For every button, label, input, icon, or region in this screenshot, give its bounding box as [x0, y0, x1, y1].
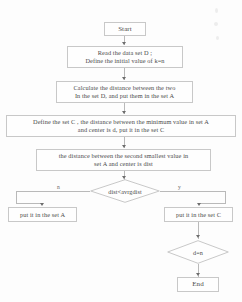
node-decision-dist-label: dist<avrgdist: [108, 188, 142, 195]
node-define-set-c-label: Define the set C , the distance between …: [31, 118, 211, 134]
node-start[interactable]: Start: [104, 22, 146, 36]
connector-decision-no-to-box: [16, 203, 42, 204]
node-calculate-distance-label: Calculate the distance between the two I…: [72, 84, 178, 100]
branch-label-no: n: [57, 184, 60, 190]
connector-decision-yes-horizontal: [160, 191, 226, 192]
connector-decision-yes-to-box: [199, 203, 226, 204]
node-put-set-c[interactable]: put it in the set C: [164, 207, 233, 222]
node-put-set-a[interactable]: put it in the set A: [8, 207, 77, 222]
node-second-smallest-distance-label: the distance between the second smallest…: [57, 152, 191, 168]
node-define-set-c[interactable]: Define the set C , the distance between …: [6, 115, 236, 137]
node-read-data[interactable]: Read the data set D ; Define the initial…: [67, 46, 183, 68]
node-put-set-a-label: put it in the set A: [18, 211, 67, 219]
scan-artifact-speck: [214, 22, 218, 26]
node-start-label: Start: [116, 25, 134, 34]
node-decision-dn-label: d=n: [193, 249, 203, 256]
arrow-head: [122, 111, 126, 114]
arrow-head: [122, 77, 126, 80]
connector-decision-no-horizontal: [16, 191, 90, 192]
arrow-head: [197, 203, 201, 206]
node-calculate-distance[interactable]: Calculate the distance between the two I…: [56, 81, 193, 103]
node-read-data-label: Read the data set D ; Define the initial…: [83, 49, 166, 65]
arrow-head: [122, 145, 126, 148]
scan-artifact-speck: [215, 8, 218, 13]
node-end-label: End: [190, 280, 206, 289]
arrow-head: [196, 235, 200, 238]
node-put-set-c-label: put it in the set C: [174, 211, 223, 219]
arrow-head: [122, 42, 126, 45]
arrow-head: [196, 273, 200, 276]
node-second-smallest-distance[interactable]: the distance between the second smallest…: [36, 149, 211, 171]
node-decision-dn[interactable]: d=n: [167, 240, 229, 264]
arrow-head: [40, 203, 44, 206]
scan-artifact-speck: [216, 36, 219, 40]
node-decision-dist[interactable]: dist<avrgdist: [90, 179, 160, 203]
node-end[interactable]: End: [177, 277, 219, 292]
branch-label-yes: y: [178, 184, 181, 190]
flowchart-canvas: Start Read the data set D ; Define the i…: [0, 0, 242, 302]
